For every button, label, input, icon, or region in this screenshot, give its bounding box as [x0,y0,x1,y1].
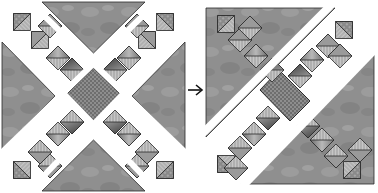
transform-arrow-icon [188,85,202,95]
before-panel [0,2,193,193]
after-panel [200,0,378,193]
quilt-diagram [0,0,378,193]
